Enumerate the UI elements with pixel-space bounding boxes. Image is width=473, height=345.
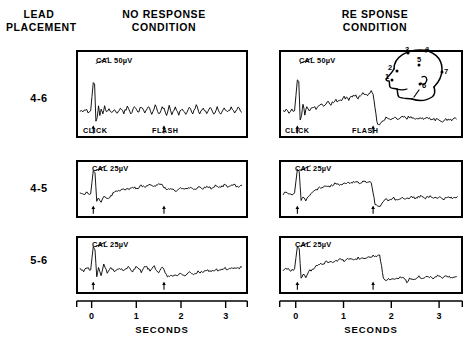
- stimulus-arrow: [91, 282, 95, 290]
- stimulus-arrow: [162, 206, 166, 214]
- x-tick-label-2: 2: [174, 311, 188, 321]
- stimulus-arrow: [296, 282, 300, 290]
- x-tick-label-3: 3: [219, 311, 233, 321]
- stimulus-arrow: [371, 282, 375, 290]
- calibration-label-4-5-response: CAL 25µV: [295, 164, 332, 173]
- click-label-no-response: CLICK: [83, 126, 107, 135]
- stimulus-arrow: [371, 206, 375, 214]
- calibration-label-5-6-no-response: CAL 25µV: [92, 240, 129, 249]
- calibration-label-4-5-no-response: CAL 25µV: [92, 164, 129, 173]
- electrode-label-1: 1: [385, 72, 389, 81]
- lead-label-5-6: 5-6: [6, 254, 72, 266]
- calibration-label-4-6-no-response: CAL 50µV: [96, 56, 133, 65]
- electrode-label-2: 2: [388, 63, 392, 72]
- x-axis-title-response: SECONDS: [305, 324, 437, 335]
- x-tick-label-3: 3: [432, 311, 446, 321]
- electrode-label-5: 5: [417, 55, 421, 64]
- column-header-no-response: NO RESPONSE CONDITION: [84, 8, 244, 33]
- x-tick-label-1: 1: [129, 311, 143, 321]
- click-label-response: CLICK: [285, 126, 309, 135]
- figure-root: LEAD PLACEMENT NO RESPONSE CONDITION RE …: [0, 0, 473, 345]
- electrode-label-3: 3: [405, 47, 409, 54]
- x-tick-label-0: 0: [289, 311, 303, 321]
- electrode-placement-head-diagram: 1 2 3 4 5 6 7: [378, 47, 452, 105]
- x-tick-label-0: 0: [85, 311, 99, 321]
- lead-placement-header: LEAD PLACEMENT: [6, 8, 72, 33]
- electrode-label-7: 7: [444, 67, 448, 76]
- x-tick-label-1: 1: [337, 311, 351, 321]
- calibration-label-5-6-response: CAL 25µV: [295, 240, 332, 249]
- stimulus-arrow: [91, 206, 95, 214]
- calibration-label-4-6-response: CAL 50µV: [299, 56, 336, 65]
- lead-label-4-5: 4-5: [6, 182, 72, 194]
- flash-label-response: FLASH: [352, 126, 378, 135]
- x-axis-title-no-response: SECONDS: [96, 324, 228, 335]
- stimulus-arrow: [296, 206, 300, 214]
- x-tick-label-2: 2: [384, 311, 398, 321]
- electrode-label-6: 6: [422, 81, 426, 90]
- stimulus-arrow: [162, 282, 166, 290]
- column-header-response: RE SPONSE CONDITION: [300, 8, 450, 33]
- lead-label-4-6: 4-6: [6, 92, 72, 104]
- flash-label-no-response: FLASH: [152, 126, 178, 135]
